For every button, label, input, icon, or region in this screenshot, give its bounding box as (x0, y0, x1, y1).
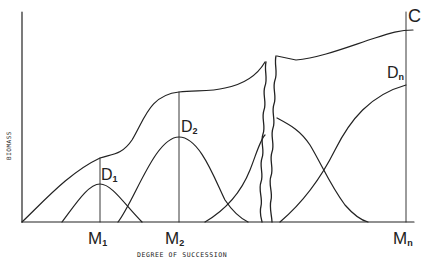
tick-m1: M1 (88, 229, 107, 249)
post-break-descending-curve (277, 118, 368, 222)
break-line-right (270, 56, 276, 222)
x-axis-label: DEGREE OF SUCCESSION (137, 251, 227, 259)
cumulative-curve-right (277, 30, 413, 60)
label-dn: Dn (387, 64, 404, 82)
cumulative-curve-left (22, 62, 265, 222)
d3-curve (205, 135, 265, 222)
y-axis-label: BIOMASS (5, 131, 12, 160)
label-cumulative-c: C (408, 6, 421, 27)
tick-m2: M2 (165, 229, 184, 249)
tick-mn: Mn (393, 229, 413, 249)
succession-diagram (0, 0, 429, 270)
label-d1: D1 (101, 166, 118, 184)
label-d2: D2 (181, 118, 198, 136)
d2-curve (118, 137, 248, 222)
